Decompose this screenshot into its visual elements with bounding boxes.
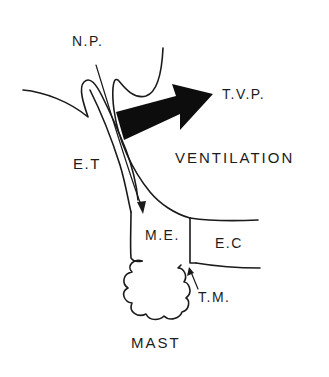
label-et: E.T [73, 156, 101, 171]
label-tvp: T.V.P. [222, 87, 265, 101]
arrowhead-down-icon [137, 201, 146, 214]
external-canal-lower [196, 263, 260, 268]
label-ec: E.C [215, 236, 243, 250]
label-np: N.P. [72, 34, 103, 48]
label-tm: T.M. [198, 290, 230, 304]
mastoid-air-cells [124, 260, 190, 319]
label-ventilation: VENTILATION [175, 150, 294, 165]
label-mast: MAST [131, 335, 181, 350]
tm-arrowhead-icon [187, 267, 194, 276]
ear-ventilation-diagram [0, 0, 329, 377]
external-canal-upper [190, 218, 258, 221]
middle-ear-left-wall [131, 212, 142, 262]
label-me: M.E. [145, 228, 180, 242]
tm-pointer-line [191, 272, 198, 289]
tympanic-membrane-line [190, 218, 196, 263]
